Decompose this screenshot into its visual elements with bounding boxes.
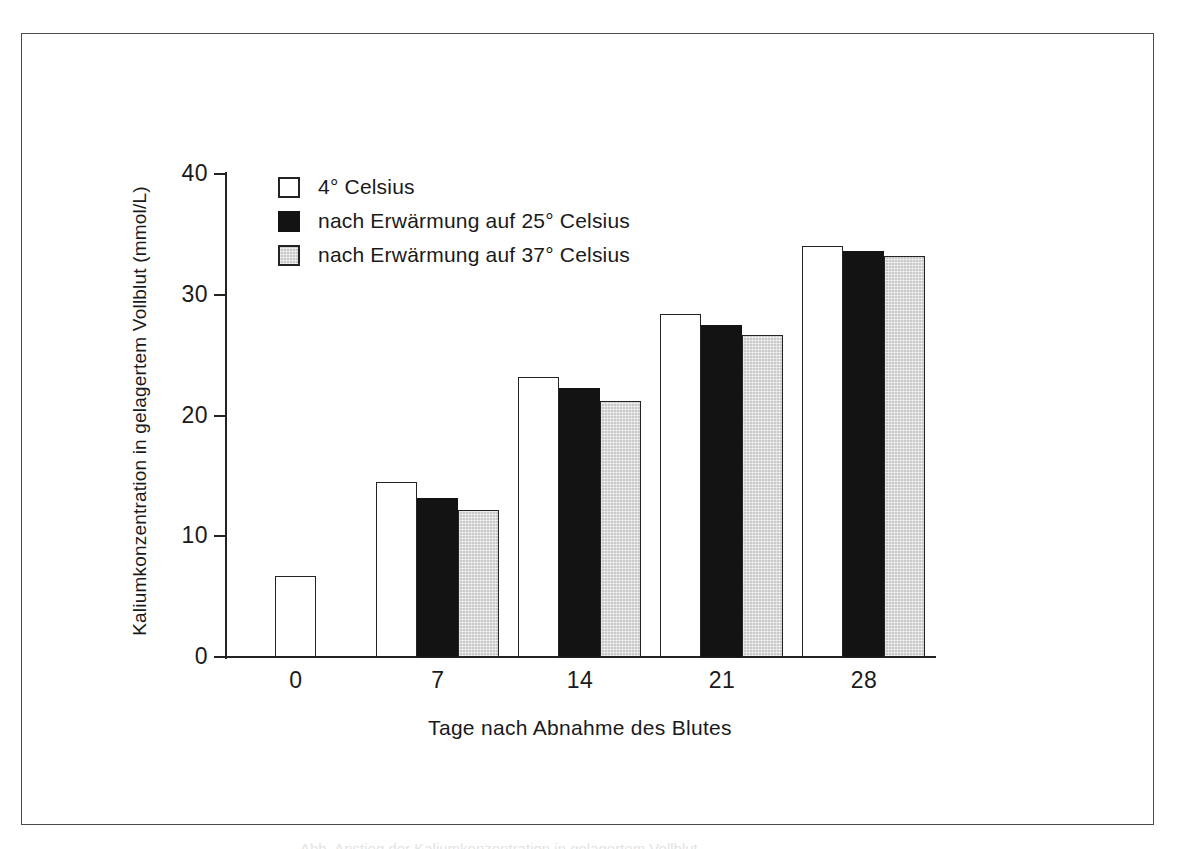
legend-label: 4° Celsius (318, 175, 415, 199)
legend-label: nach Erwärmung auf 25° Celsius (318, 209, 630, 233)
legend-label: nach Erwärmung auf 37° Celsius (318, 243, 630, 267)
y-tick-label: 40 (152, 162, 208, 186)
caption-remnant: Abb. Anstieg der Kaliumkonzentration in … (300, 840, 1160, 849)
x-tick-label: 21 (662, 668, 782, 693)
bar (701, 325, 742, 657)
bar (518, 377, 559, 657)
y-tick-mark (214, 415, 225, 417)
bar (843, 251, 884, 657)
y-tick-label: 30 (152, 283, 208, 307)
y-tick-label-text: 20 (166, 404, 208, 427)
y-tick-label-text: 0 (166, 645, 208, 668)
bar (742, 335, 783, 657)
legend-item: nach Erwärmung auf 25° Celsius (278, 204, 630, 238)
x-tick-label: 14 (520, 668, 640, 693)
bar (802, 246, 843, 657)
y-axis-title: Kaliumkonzentration in gelagertem Vollbl… (129, 151, 151, 671)
bar (417, 498, 458, 657)
y-tick-label: 10 (152, 524, 208, 548)
y-tick-mark (214, 656, 225, 658)
y-tick-label: 20 (152, 404, 208, 428)
legend-item: 4° Celsius (278, 170, 630, 204)
bar-chart: 010203040 Kaliumkonzentration in gelager… (0, 0, 1177, 849)
y-tick-label-text: 30 (166, 283, 208, 306)
legend-swatch-icon (278, 245, 300, 266)
x-tick-label: 7 (378, 668, 498, 693)
x-tick-label: 0 (236, 668, 356, 693)
bar (600, 401, 641, 657)
x-axis-title: Tage nach Abnahme des Blutes (225, 716, 935, 740)
bar (660, 314, 701, 657)
legend-swatch-icon (278, 177, 300, 198)
y-tick-mark (214, 173, 225, 175)
y-tick-label-text: 10 (166, 524, 208, 547)
bar (458, 510, 499, 657)
x-tick-label: 28 (804, 668, 924, 693)
chart-legend: 4° Celsiusnach Erwärmung auf 25° Celsius… (278, 170, 630, 272)
bar (275, 576, 316, 657)
bar (559, 388, 600, 657)
y-tick-label: 0 (152, 645, 208, 669)
legend-swatch-icon (278, 211, 300, 232)
y-tick-mark (214, 294, 225, 296)
legend-item: nach Erwärmung auf 37° Celsius (278, 238, 630, 272)
y-tick-label-text: 40 (166, 162, 208, 185)
bar (376, 482, 417, 657)
bar (884, 256, 925, 657)
y-tick-mark (214, 535, 225, 537)
